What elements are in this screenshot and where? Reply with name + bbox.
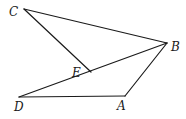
segment-CE — [24, 9, 91, 72]
segment-DB — [19, 43, 167, 97]
segments — [19, 9, 167, 97]
label-A: A — [116, 99, 126, 113]
label-D: D — [13, 100, 24, 114]
label-B: B — [170, 40, 180, 54]
label-C: C — [9, 5, 18, 19]
segment-DA — [19, 96, 125, 97]
label-E: E — [71, 66, 81, 80]
geometry-figure: C B E D A — [0, 0, 186, 119]
segment-CB — [24, 9, 167, 43]
